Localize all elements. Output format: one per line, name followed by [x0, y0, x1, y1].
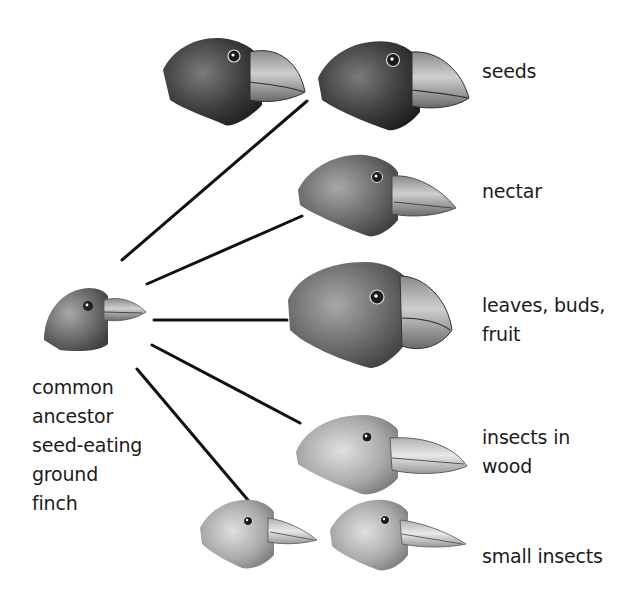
leaves-label-line: leaves, buds, — [482, 291, 605, 320]
small-insects-finch-1-head-icon — [200, 500, 317, 569]
ancestor-label-line: common — [32, 373, 142, 402]
small-insects-label-text: small insects — [482, 542, 603, 571]
branch-lines — [122, 101, 307, 512]
line-to-nectar — [147, 216, 302, 284]
ancestor-label: common ancestor seed-eating ground finch — [32, 373, 142, 518]
ancestor-label-line: seed-eating — [32, 431, 142, 460]
insects-wood-finch-head-icon — [296, 415, 467, 494]
ancestor-label-line: ancestor — [32, 402, 142, 431]
seeds-finch-1-head-icon — [163, 38, 305, 126]
ancestor-label-line: finch — [32, 489, 142, 518]
small-insects-finch-2-head-icon — [330, 500, 466, 571]
seeds-label-text: seeds — [482, 57, 536, 86]
leaves-label-line: fruit — [482, 320, 605, 349]
leaves-label: leaves, buds, fruit — [482, 291, 605, 349]
insects-wood-label: insects in wood — [482, 423, 570, 481]
ancestor-label-line: ground — [32, 460, 142, 489]
nectar-label: nectar — [482, 177, 542, 206]
insects-wood-label-line: wood — [482, 452, 570, 481]
small-insects-label: small insects — [482, 542, 603, 571]
seeds-label: seeds — [482, 57, 536, 86]
insects-wood-label-line: insects in — [482, 423, 570, 452]
line-to-seeds — [122, 101, 307, 260]
nectar-label-text: nectar — [482, 177, 542, 206]
seeds-finch-2-head-icon — [318, 41, 469, 130]
nectar-finch-head-icon — [298, 155, 456, 237]
leaves-finch-head-icon — [288, 262, 452, 368]
ancestor-finch-head-icon — [44, 288, 146, 351]
finch-radiation-diagram: common ancestor seed-eating ground finch… — [0, 0, 631, 614]
